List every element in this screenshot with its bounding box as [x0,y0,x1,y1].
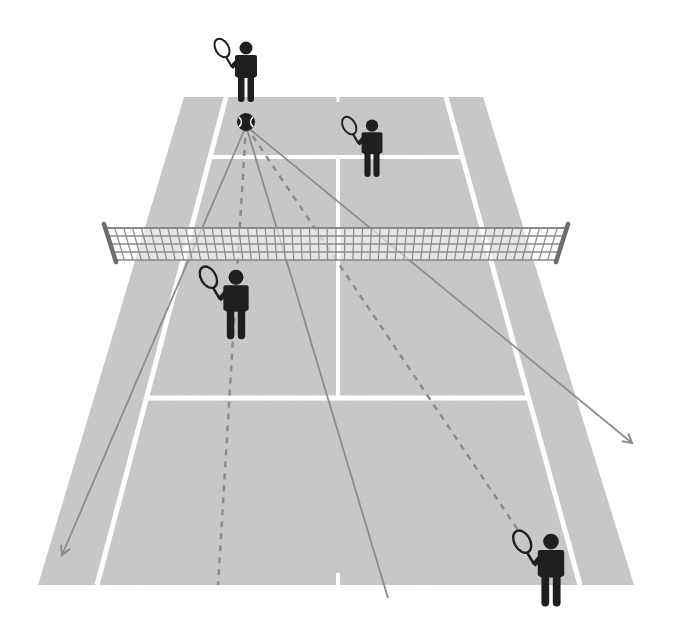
player-head [366,119,378,131]
player-torso [223,285,248,311]
tennis-ball-icon [237,113,255,131]
player-head [543,534,559,550]
player-leg-right [553,575,561,606]
player-head [229,270,244,285]
player-torso [235,55,257,78]
player-torso [538,550,564,578]
net-vertical-cord [353,228,354,260]
racket-handle [226,57,232,67]
player-leg-left [227,309,234,339]
tennis-net [104,224,568,262]
net-vertical-cord [318,228,319,260]
player-leg-left [238,76,245,102]
player-leg-right [238,309,245,339]
player-leg-left [541,575,549,606]
player-leg-left [364,152,370,177]
tennis-court-diagram: Tennis doubles court - shot directions d… [0,0,682,635]
player-torso [362,132,383,154]
court-surface [38,97,634,585]
player-leg-right [373,152,379,177]
ball-body [237,113,255,131]
court-canvas [0,0,682,635]
player-far-server-icon [211,36,257,102]
racket-head [211,36,232,60]
player-leg-right [248,76,255,102]
player-head [240,42,253,55]
